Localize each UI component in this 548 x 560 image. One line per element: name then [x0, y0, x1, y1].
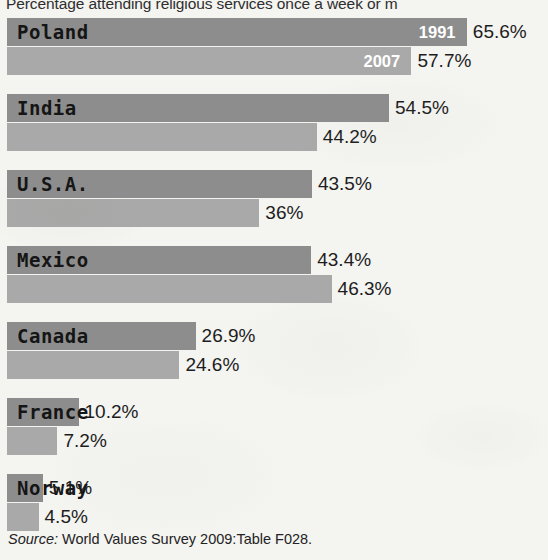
- value-label-2007: 44.2%: [323, 123, 377, 151]
- country-label: Poland: [17, 18, 89, 46]
- value-label-1991: 65.6%: [473, 18, 527, 46]
- source-text: World Values Survey 2009:Table F028.: [62, 531, 312, 547]
- value-label-1991: 43.5%: [318, 170, 372, 198]
- bar-group: Norway5.1%4.5%: [0, 474, 548, 531]
- value-label-2007: 36%: [265, 199, 303, 227]
- value-label-1991: 43.4%: [317, 246, 371, 274]
- country-label: Mexico: [17, 246, 89, 274]
- value-label-2007: 4.5%: [45, 503, 88, 531]
- country-label: Canada: [17, 322, 89, 350]
- bar-group: Canada26.9%24.6%: [0, 322, 548, 379]
- bar-group: France10.2%7.2%: [0, 398, 548, 455]
- value-label-1991: 54.5%: [395, 94, 449, 122]
- value-label-2007: 57.7%: [417, 47, 471, 75]
- bar-2007: [7, 427, 57, 455]
- bar-group: Mexico43.4%46.3%: [0, 246, 548, 303]
- legend-year-2007: 2007: [363, 47, 400, 75]
- source-label: Source:: [8, 531, 58, 547]
- bar-chart: Percentage attending religious services …: [0, 0, 548, 560]
- value-label-2007: 7.2%: [63, 427, 106, 455]
- chart-title: Percentage attending religious services …: [6, 0, 548, 15]
- value-label-2007: 46.3%: [338, 275, 392, 303]
- source-note: Source: World Values Survey 2009:Table F…: [8, 531, 312, 547]
- bar-group: India54.5%44.2%: [0, 94, 548, 151]
- bar-2007: [7, 275, 332, 303]
- value-label-1991: 26.9%: [202, 322, 256, 350]
- country-label: U.S.A.: [17, 170, 89, 198]
- value-label-1991: 5.1%: [49, 474, 92, 502]
- country-label: India: [17, 94, 77, 122]
- bar-group: U.S.A.43.5%36%: [0, 170, 548, 227]
- value-label-1991: 10.2%: [85, 398, 139, 426]
- country-label: France: [17, 398, 89, 426]
- bar-2007: [7, 199, 259, 227]
- bar-2007: [7, 47, 411, 75]
- bar-2007: [7, 123, 317, 151]
- value-label-2007: 24.6%: [185, 351, 239, 379]
- plot-area: Poland199165.6%200757.7%India54.5%44.2%U…: [0, 18, 548, 528]
- bar-2007: [7, 503, 39, 531]
- bar-2007: [7, 351, 179, 379]
- legend-year-1991: 1991: [419, 18, 456, 46]
- bar-group: Poland199165.6%200757.7%: [0, 18, 548, 75]
